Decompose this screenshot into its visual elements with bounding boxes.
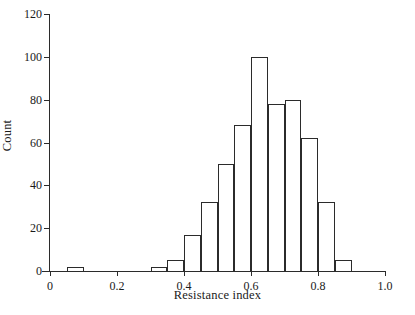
histogram-bar [201, 202, 218, 271]
histogram-bar [234, 125, 251, 271]
histogram-figure: Count 020406080100120 00.20.40.60.81.0 R… [0, 0, 415, 315]
y-axis-tick-label: 120 [24, 7, 42, 22]
x-axis-tick-mark [251, 271, 252, 276]
histogram-bar [67, 267, 84, 271]
x-axis-tick-mark [184, 271, 185, 276]
histogram-bar [167, 260, 184, 271]
x-axis-tick-mark [50, 271, 51, 276]
y-axis-tick-mark [44, 228, 49, 229]
y-axis-tick-label: 100 [24, 49, 42, 64]
histogram-bar [251, 57, 268, 271]
y-axis-tick-mark [44, 57, 49, 58]
x-axis-label: Resistance index [50, 288, 385, 303]
x-axis-tick-mark [318, 271, 319, 276]
y-axis-tick-label: 80 [30, 92, 42, 107]
y-axis-tick-mark [44, 14, 49, 15]
histogram-bar [335, 260, 352, 271]
x-axis-label-text: Resistance index [174, 288, 262, 302]
histogram-bar [184, 235, 201, 271]
y-axis-tick-mark [44, 271, 49, 272]
y-axis-tick-label: 20 [30, 221, 42, 236]
histogram-bar [318, 202, 335, 271]
histogram-bar [151, 267, 168, 271]
y-axis-tick-mark [44, 143, 49, 144]
y-axis-tick-label: 40 [30, 178, 42, 193]
histogram-bar [285, 100, 302, 271]
histogram-bar [301, 138, 318, 271]
x-axis-tick-mark [117, 271, 118, 276]
y-axis-tick-mark [44, 100, 49, 101]
y-axis-label: Count [0, 0, 16, 271]
histogram-bar [218, 164, 235, 271]
y-axis-tick-label: 60 [30, 135, 42, 150]
x-axis-line [42, 271, 386, 272]
x-axis-tick-mark [385, 271, 386, 276]
histogram-bar [268, 104, 285, 271]
y-axis-tick-mark [44, 185, 49, 186]
y-axis-label-text: Count [1, 120, 16, 152]
plot-area [50, 14, 385, 271]
y-axis-tick-label: 0 [36, 264, 42, 279]
